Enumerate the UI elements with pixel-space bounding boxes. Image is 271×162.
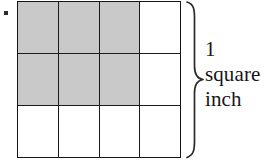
grid-cell-r2c3: [99, 54, 140, 106]
table-row: [18, 2, 181, 54]
grid-cell-r3c1: [18, 106, 59, 158]
fraction-grid: [17, 1, 181, 158]
grid-cell-r1c4: [140, 2, 181, 54]
brace-label-line-3: inch: [205, 87, 271, 112]
grid-cell-r1c2: [58, 2, 99, 54]
grid-cell-r3c4: [140, 106, 181, 158]
table-row: [18, 106, 181, 158]
grid-cell-r2c4: [140, 54, 181, 106]
curly-brace-icon: [184, 0, 206, 160]
grid-cell-r2c1: [18, 54, 59, 106]
grid-cell-r3c3: [99, 106, 140, 158]
brace-label-line-2: square: [205, 62, 271, 87]
figure-area-model: 1 square inch: [0, 0, 271, 162]
bullet-point-icon: [4, 11, 8, 15]
grid-cell-r1c3: [99, 2, 140, 54]
table-row: [18, 54, 181, 106]
brace-label-line-1: 1: [205, 37, 271, 62]
grid-cell-r1c1: [18, 2, 59, 54]
grid-cell-r3c2: [58, 106, 99, 158]
brace-label: 1 square inch: [205, 37, 271, 111]
grid-table: [17, 1, 181, 158]
grid-cell-r2c2: [58, 54, 99, 106]
